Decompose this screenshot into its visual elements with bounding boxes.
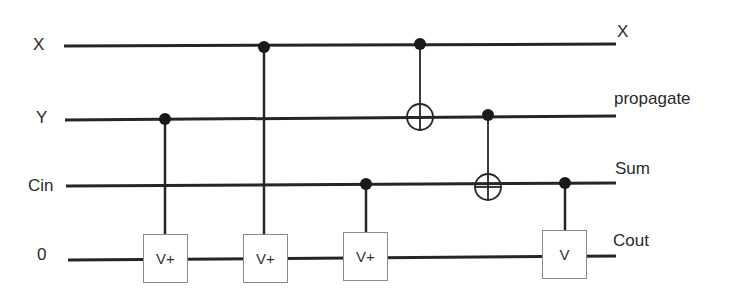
v-dagger-gate: V+	[343, 232, 388, 281]
control-dot	[360, 178, 372, 190]
v-dagger-gate: V+	[243, 234, 288, 283]
wire-x	[64, 44, 616, 46]
wire-y	[65, 116, 616, 120]
output-label-propagate: propagate	[614, 90, 691, 107]
input-label-zero: 0	[37, 246, 46, 263]
gate-label: V+	[256, 250, 275, 267]
control-dot	[258, 41, 270, 53]
control-dot	[159, 113, 171, 125]
output-label-x: X	[617, 23, 628, 40]
v-dagger-gate: V+	[143, 234, 188, 283]
wire-cin	[66, 183, 616, 186]
gate-label: V	[559, 246, 569, 263]
input-label-x: X	[33, 36, 44, 53]
control-dot	[482, 109, 494, 121]
output-label-sum: Sum	[615, 160, 650, 177]
control-dot	[414, 38, 426, 50]
gate-label: V+	[356, 248, 375, 265]
input-label-cin: Cin	[28, 177, 54, 194]
input-label-y: Y	[36, 109, 47, 126]
v-gate: V	[542, 230, 587, 279]
gate-label: V+	[156, 250, 175, 267]
output-label-cout: Cout	[613, 232, 649, 249]
control-dot	[559, 177, 571, 189]
